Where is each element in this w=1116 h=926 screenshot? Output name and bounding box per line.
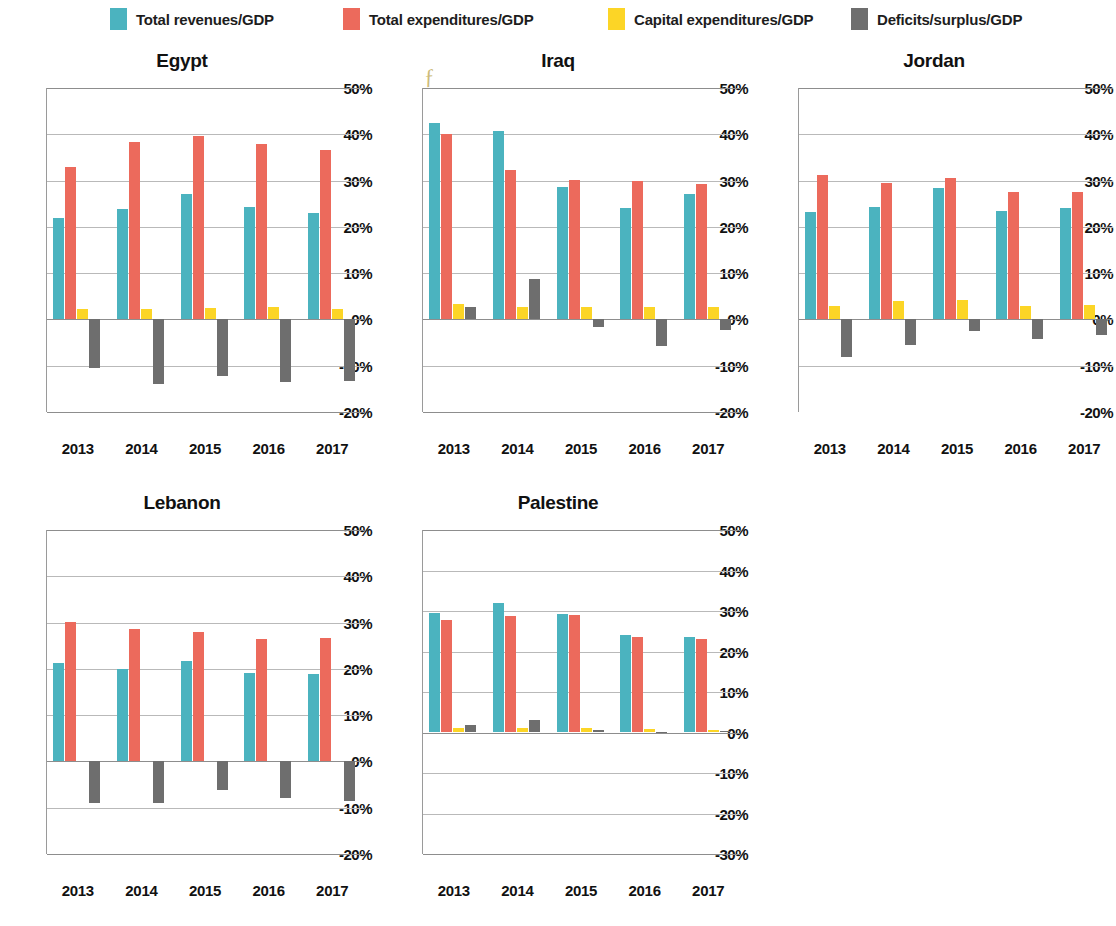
x-axis-tick-label: 2013 — [46, 882, 110, 899]
bar-palestine-2014-series3 — [529, 720, 540, 733]
bar-jordan-2015-series2 — [957, 300, 968, 319]
legend-swatch-icon — [851, 8, 868, 30]
bar-egypt-2014-series1 — [129, 142, 140, 319]
legend-item-0[interactable]: Total revenues/GDP — [110, 8, 274, 30]
gridline-0% — [423, 319, 740, 320]
gridline-30% — [423, 611, 740, 612]
bar-lebanon-2015-series0 — [181, 661, 192, 762]
x-axis-tick-label: 2015 — [925, 440, 989, 457]
bar-lebanon-2013-series3 — [89, 761, 100, 803]
bar-iraq-2013-series2 — [453, 304, 464, 319]
bar-jordan-2014-series3 — [905, 319, 916, 344]
bar-iraq-2016-series2 — [644, 307, 655, 319]
bar-egypt-2015-series0 — [181, 194, 192, 319]
bar-egypt-2016-series1 — [256, 144, 267, 320]
bar-palestine-2014-series1 — [505, 616, 516, 732]
bar-egypt-2016-series3 — [280, 319, 291, 381]
bar-egypt-2016-series0 — [244, 207, 255, 319]
chart-legend: Total revenues/GDPTotal expenditures/GDP… — [0, 0, 1113, 42]
legend-item-label: Capital expenditures/GDP — [634, 11, 813, 28]
plot-area-lebanon — [46, 530, 364, 854]
bar-palestine-2017-series2 — [708, 730, 719, 733]
bar-iraq-2017-series0 — [684, 194, 695, 319]
bar-palestine-2013-series2 — [453, 728, 464, 732]
bar-jordan-2013-series2 — [829, 306, 840, 319]
bar-jordan-2017-series1 — [1072, 192, 1083, 319]
bar-iraq-2014-series0 — [493, 131, 504, 320]
bar-egypt-2013-series0 — [53, 218, 64, 320]
bar-lebanon-2017-series0 — [308, 674, 319, 761]
bar-lebanon-2016-series0 — [244, 673, 255, 761]
x-axis-tick-label: 2015 — [173, 440, 237, 457]
x-axis-tick-label: 2016 — [989, 440, 1053, 457]
bar-jordan-2015-series3 — [969, 319, 980, 331]
gridline-40% — [799, 134, 1113, 135]
gridline--20% — [47, 854, 364, 855]
chart-title-egypt: Egypt — [0, 50, 364, 72]
legend-item-3[interactable]: Deficits/surplus/GDP — [851, 8, 1022, 30]
bar-jordan-2017-series3 — [1096, 319, 1107, 335]
bar-iraq-2013-series0 — [429, 123, 440, 320]
bar-palestine-2016-series0 — [620, 635, 631, 732]
bar-egypt-2014-series0 — [117, 209, 128, 319]
bar-jordan-2014-series1 — [881, 183, 892, 320]
gridline-40% — [47, 134, 364, 135]
plot-area-iraq — [422, 88, 740, 412]
bar-egypt-2013-series2 — [77, 309, 88, 319]
gridline--10% — [423, 773, 740, 774]
x-axis-tick-label: 2013 — [422, 882, 486, 899]
bar-palestine-2015-series1 — [569, 615, 580, 732]
bar-lebanon-2016-series1 — [256, 639, 267, 762]
legend-item-1[interactable]: Total expenditures/GDP — [343, 8, 534, 30]
bar-iraq-2015-series2 — [581, 307, 592, 319]
legend-item-label: Total expenditures/GDP — [369, 11, 534, 28]
bar-egypt-2016-series2 — [268, 307, 279, 319]
gridline-30% — [47, 181, 364, 182]
bar-lebanon-2014-series0 — [117, 669, 128, 762]
bar-palestine-2015-series2 — [581, 728, 592, 732]
bar-jordan-2015-series1 — [945, 178, 956, 320]
x-axis-tick-label: 2014 — [110, 440, 174, 457]
bar-palestine-2015-series0 — [557, 614, 568, 733]
bar-iraq-2015-series1 — [569, 180, 580, 320]
bar-palestine-2016-series1 — [632, 637, 643, 733]
legend-item-label: Deficits/surplus/GDP — [877, 11, 1022, 28]
bar-iraq-2016-series1 — [632, 181, 643, 320]
gridline--20% — [423, 412, 740, 413]
gridline-0% — [423, 733, 740, 734]
bar-iraq-2017-series3 — [720, 319, 731, 329]
bar-palestine-2013-series1 — [441, 620, 452, 733]
bar-egypt-2017-series0 — [308, 213, 319, 319]
x-axis-tick-label: 2017 — [300, 440, 364, 457]
bar-palestine-2017-series3 — [720, 731, 731, 733]
legend-swatch-icon — [110, 8, 127, 30]
legend-item-2[interactable]: Capital expenditures/GDP — [608, 8, 813, 30]
bar-iraq-2014-series2 — [517, 307, 528, 319]
bar-jordan-2013-series3 — [841, 319, 852, 357]
bar-egypt-2015-series1 — [193, 136, 204, 319]
gridline--30% — [423, 854, 740, 855]
x-axis-tick-label: 2015 — [173, 882, 237, 899]
gridline-30% — [423, 181, 740, 182]
bar-egypt-2017-series2 — [332, 309, 343, 319]
bar-lebanon-2013-series0 — [53, 663, 64, 761]
bar-egypt-2014-series2 — [141, 309, 152, 319]
x-axis-tick-label: 2015 — [549, 882, 613, 899]
bar-jordan-2013-series0 — [805, 212, 816, 320]
bar-palestine-2016-series2 — [644, 729, 655, 732]
gridline--10% — [423, 366, 740, 367]
x-axis-tick-label: 2014 — [486, 882, 550, 899]
chart-panel-palestine: Palestine50%40%30%20%10%0%-10%-20%-30%20… — [376, 492, 748, 916]
gridline-30% — [47, 623, 364, 624]
bar-lebanon-2014-series3 — [153, 761, 164, 803]
bar-jordan-2015-series0 — [933, 188, 944, 319]
legend-swatch-icon — [343, 8, 360, 30]
bar-iraq-2015-series0 — [557, 187, 568, 320]
chart-title-lebanon: Lebanon — [0, 492, 364, 514]
chart-title-jordan: Jordan — [752, 50, 1116, 72]
bar-iraq-2017-series1 — [696, 184, 707, 319]
gridline-50% — [47, 530, 364, 531]
bar-jordan-2017-series2 — [1084, 305, 1095, 320]
plot-area-egypt — [46, 88, 364, 412]
gridline-50% — [423, 530, 740, 531]
